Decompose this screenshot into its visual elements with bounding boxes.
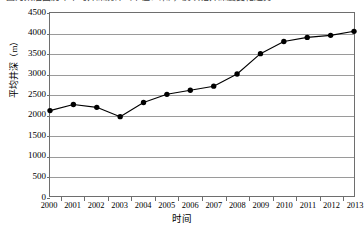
data-point-marker [258,51,263,56]
y-tick-label: 2000 [12,110,46,119]
data-point-marker [94,105,99,110]
x-tick-label: 2013 [338,200,364,212]
series-polyline [50,31,354,116]
y-tick-mark [47,75,50,76]
y-tick-label: 4000 [12,28,46,37]
x-axis-tick-labels: 2000200120022003200420052006200720082009… [0,200,364,214]
data-point-marker [211,84,216,89]
data-point-marker [281,39,286,44]
y-tick-mark [47,136,50,137]
y-tick-label: 500 [12,172,46,181]
data-point-marker [328,33,333,38]
data-point-marker [47,108,52,113]
y-tick-mark [47,95,50,96]
data-point-marker [71,102,76,107]
y-tick-label: 3000 [12,69,46,78]
y-tick-label: 1000 [12,151,46,160]
y-tick-mark [47,116,50,117]
data-point-marker [351,29,356,34]
data-point-marker [305,35,310,40]
data-point-marker [117,114,122,119]
line-chart: 图为某油田历年平均井深统计（单位：米），反映钻井深度变化趋势 平均井深（m） 4… [0,0,364,231]
y-tick-mark [47,177,50,178]
y-tick-mark [47,13,50,14]
data-point-marker [234,71,239,76]
y-tick-label: 1500 [12,131,46,140]
data-point-marker [141,100,146,105]
y-tick-mark [47,54,50,55]
data-series-line [50,13,354,196]
figure-caption: 图为某油田历年平均井深统计（单位：米），反映钻井深度变化趋势 [6,0,358,3]
y-tick-label: 2500 [12,90,46,99]
y-axis-tick-labels: 450040003500300025002000150010005000 [10,0,46,231]
x-axis-title: 时间 [0,213,364,225]
y-tick-label: 4500 [12,8,46,17]
data-point-marker [188,88,193,93]
y-tick-mark [47,157,50,158]
plot-area [49,12,355,197]
data-point-marker [164,92,169,97]
y-tick-mark [47,34,50,35]
y-tick-label: 3500 [12,49,46,58]
